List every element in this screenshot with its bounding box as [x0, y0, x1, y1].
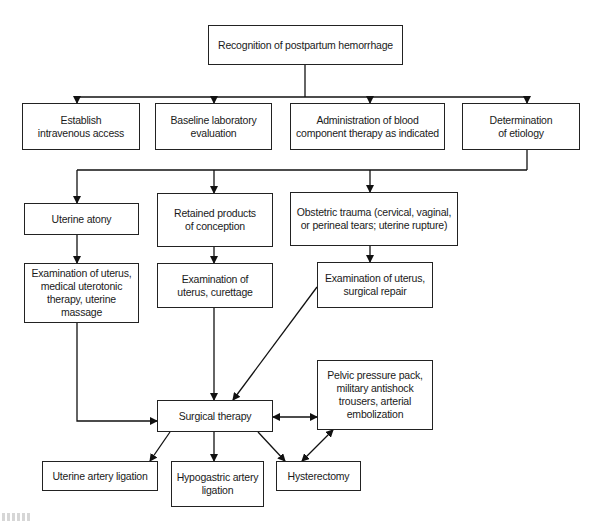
node-uterine-artery-ligation: Uterine artery ligation [42, 461, 158, 491]
node-label: Establish intravenous access [38, 114, 124, 140]
node-label: Examination of uterus, surgical repair [325, 272, 425, 298]
node-retained-treatment: Examination of uterus, curettage [157, 263, 273, 308]
node-label: Hypogastric artery ligation [177, 471, 259, 497]
node-recognition: Recognition of postpartum hemorrhage [208, 25, 403, 65]
node-surgical-therapy: Surgical therapy [157, 400, 273, 432]
node-label: Retained products of conception [174, 207, 256, 233]
node-label: Uterine atony [52, 213, 112, 226]
node-label: Examination of uterus, medical uterotoni… [29, 267, 134, 319]
node-label: Baseline laboratory evaluation [170, 114, 256, 140]
node-uterine-atony: Uterine atony [24, 203, 139, 235]
node-hypogastric-artery-ligation: Hypogastric artery ligation [171, 461, 264, 507]
node-label: Surgical therapy [179, 410, 252, 423]
node-atony-treatment: Examination of uterus, medical uterotoni… [24, 263, 139, 323]
node-obstetric-trauma: Obstetric trauma (cervical, vaginal, or … [290, 192, 458, 246]
node-blood-therapy: Administration of blood component therap… [290, 103, 445, 150]
flowchart: Recognition of postpartum hemorrhage Est… [0, 0, 603, 526]
node-label: Pelvic pressure pack, military antishock… [327, 369, 423, 421]
node-label: Administration of blood component therap… [296, 114, 439, 140]
node-hysterectomy: Hysterectomy [276, 461, 361, 491]
node-etiology: Determination of etiology [462, 103, 580, 150]
node-label: Recognition of postpartum hemorrhage [218, 39, 393, 52]
node-retained-products: Retained products of conception [157, 193, 273, 247]
node-trauma-treatment: Examination of uterus, surgical repair [317, 262, 433, 308]
node-label: Hysterectomy [288, 470, 350, 483]
node-label: Obstetric trauma (cervical, vaginal, or … [297, 206, 451, 232]
node-label: Uterine artery ligation [52, 470, 147, 483]
node-label: Examination of uterus, curettage [177, 273, 252, 299]
node-lab-eval: Baseline laboratory evaluation [155, 103, 272, 150]
node-iv-access: Establish intravenous access [22, 103, 140, 150]
node-pelvic-pressure: Pelvic pressure pack, military antishock… [317, 360, 433, 430]
node-label: Determination of etiology [490, 114, 553, 140]
page-edge-artifact [2, 513, 32, 521]
